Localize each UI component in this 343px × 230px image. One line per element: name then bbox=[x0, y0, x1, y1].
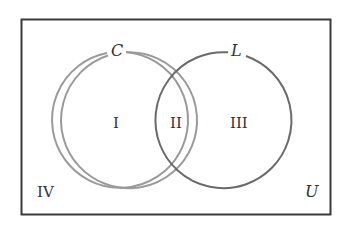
region-ii-label: II bbox=[170, 114, 182, 132]
region-iii-label: III bbox=[230, 114, 248, 132]
venn-diagram: C L I II III IV U bbox=[0, 0, 343, 230]
set-c-label: C bbox=[111, 41, 123, 60]
region-i-label: I bbox=[113, 114, 119, 132]
universe-label: U bbox=[305, 182, 319, 201]
set-c-circle bbox=[52, 52, 188, 188]
set-l-label: L bbox=[230, 41, 242, 60]
region-iv-label: IV bbox=[37, 183, 55, 201]
